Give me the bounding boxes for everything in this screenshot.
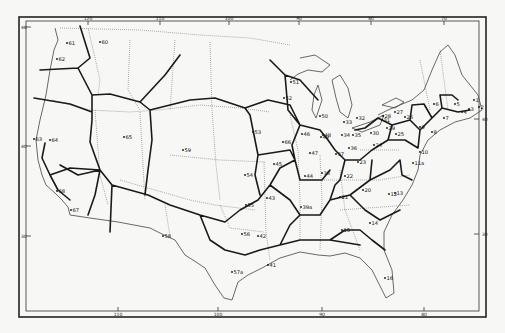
region-label: 35: [355, 132, 362, 138]
region-label: 6: [436, 101, 439, 107]
region-label: 58: [165, 233, 172, 239]
longitude-tick-label: 80: [421, 312, 427, 317]
region-label: 50: [322, 113, 329, 119]
region-marker-51: 51: [290, 79, 299, 85]
region-label: 8: [434, 129, 437, 135]
region-label: 57a: [234, 269, 244, 275]
region-label: 49: [323, 134, 330, 140]
region-label: 62: [59, 56, 66, 62]
region-marker-27: 27: [394, 109, 403, 115]
longitude-tick-label: 110: [114, 312, 123, 317]
region-marker-45: 45: [273, 161, 282, 167]
region-label: 63: [36, 136, 43, 142]
region-marker-61: 61: [66, 40, 75, 46]
region-marker-21: 21: [339, 194, 348, 200]
region-boundaries: [34, 26, 470, 255]
region-label: 37: [338, 151, 345, 157]
region-label: 3: [471, 106, 474, 112]
region-marker-41: 41: [267, 262, 276, 268]
region-marker-36: 36: [348, 145, 357, 151]
region-label: 24: [376, 142, 383, 148]
region-marker-5: 5: [454, 101, 460, 107]
region-label: 45: [276, 161, 283, 167]
region-marker-42: 42: [257, 233, 266, 239]
latitude-tick-label: 40: [482, 117, 488, 122]
region-label: 30: [373, 130, 380, 136]
region-label: 38: [324, 170, 331, 176]
region-marker-56: 56: [241, 231, 250, 237]
region-label: 10: [422, 149, 429, 155]
region-label: 36: [351, 145, 358, 151]
region-label: 65: [126, 134, 133, 140]
region-markers: 1234567891011a12131415162021222324252627…: [33, 39, 484, 281]
region-marker-11a: 11a: [412, 160, 424, 166]
region-marker-35: 35: [352, 132, 361, 138]
region-marker-24: 24: [373, 142, 383, 148]
map-inner-frame: [26, 21, 479, 311]
region-marker-30: 30: [370, 130, 379, 136]
region-marker-38: 38: [321, 170, 330, 176]
region-label: 9: [422, 124, 425, 130]
region-marker-26: 26: [404, 114, 413, 120]
longitude-tick-label: 90: [319, 312, 325, 317]
latitude-tick-label: 48: [21, 25, 27, 30]
longitude-tick-label: 100: [225, 16, 234, 21]
region-label: 29: [389, 125, 396, 131]
region-marker-58: 58: [162, 233, 171, 239]
region-marker-29: 29: [386, 125, 395, 131]
region-label: 39a: [303, 204, 313, 210]
region-marker-50: 50: [319, 113, 328, 119]
region-marker-64: 64: [49, 137, 59, 143]
region-marker-32: 32: [356, 115, 365, 121]
region-marker-34: 34: [341, 132, 351, 138]
region-label: 4: [464, 109, 468, 115]
region-marker-39a: 39a: [300, 204, 312, 210]
region-label: 61: [69, 40, 76, 46]
region-label: 67: [73, 207, 80, 213]
map-container: 12011010090807011010090804840304030 1234…: [0, 0, 505, 333]
region-label: 1: [476, 97, 479, 103]
region-marker-54: 54: [244, 172, 254, 178]
region-marker-33: 33: [343, 119, 352, 125]
region-label: 11a: [415, 160, 425, 166]
longitude-tick-label: 100: [214, 312, 223, 317]
region-label: 33: [346, 119, 353, 125]
region-label: 21: [342, 194, 349, 200]
region-marker-6: 6: [433, 101, 439, 107]
region-label: 23: [360, 159, 367, 165]
region-label: 47: [312, 150, 319, 156]
region-label: 43: [269, 195, 276, 201]
region-label: 59: [185, 147, 192, 153]
region-label: 41: [270, 262, 277, 268]
region-label: 32: [359, 115, 366, 121]
region-marker-60: 60: [99, 39, 108, 45]
region-marker-7: 7: [443, 115, 449, 121]
region-label: 64: [52, 137, 59, 143]
region-label: 46: [304, 131, 311, 137]
state-boundaries: [52, 28, 448, 260]
region-label: 34: [344, 132, 351, 138]
region-marker-8: 8: [431, 129, 437, 135]
region-label: 53: [255, 129, 262, 135]
region-marker-66: 66: [282, 139, 291, 145]
region-marker-43: 43: [266, 195, 275, 201]
region-label: 20: [365, 187, 372, 193]
region-marker-1: 1: [473, 97, 479, 103]
latitude-tick-label: 30: [482, 232, 488, 237]
region-marker-59: 59: [182, 147, 191, 153]
region-label: 16: [387, 275, 394, 281]
region-label: 55: [248, 202, 255, 208]
region-label: 27: [397, 109, 404, 115]
region-label: 26: [407, 114, 414, 120]
region-label: 25: [398, 131, 405, 137]
region-label: 2: [481, 104, 484, 110]
region-marker-14: 14: [369, 220, 379, 226]
region-marker-44: 44: [304, 173, 314, 179]
region-marker-49: 49: [320, 134, 329, 140]
us-region-map: 12011010090807011010090804840304030 1234…: [0, 0, 505, 333]
region-marker-67: 67: [70, 207, 79, 213]
region-label: 42: [260, 233, 267, 239]
region-label: 5: [457, 101, 460, 107]
region-marker-22: 22: [344, 173, 353, 179]
region-label: 52: [286, 95, 293, 101]
